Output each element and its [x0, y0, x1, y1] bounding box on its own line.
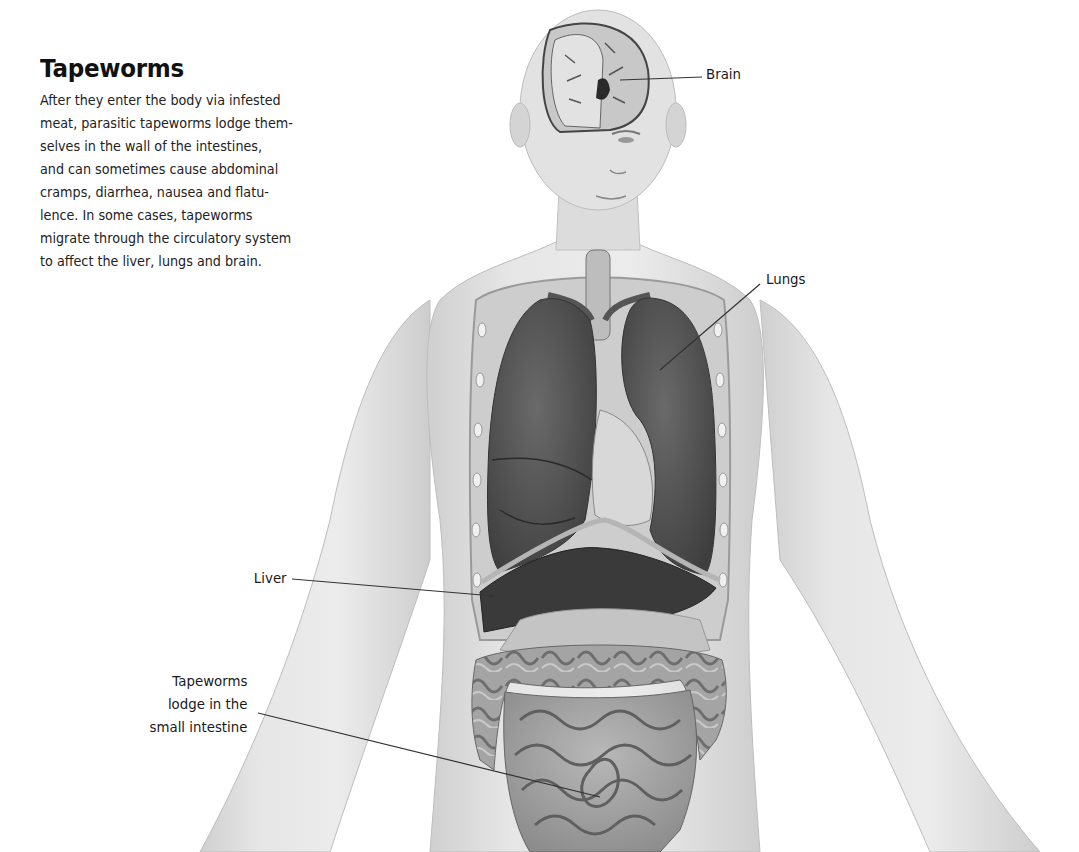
label-liver: Liver	[254, 567, 287, 590]
small-intestine	[504, 690, 697, 852]
page-title: Tapeworms	[40, 54, 344, 83]
label-lungs: Lungs	[766, 271, 806, 287]
label-brain: Brain	[706, 66, 741, 82]
description-line: migrate through the circulatory system	[40, 227, 369, 250]
description-line: After they enter the body via infested	[40, 89, 369, 112]
label-line: small intestine	[149, 716, 247, 739]
description-line: lence. In some cases, tapeworms	[40, 204, 369, 227]
description-line: meat, parasitic tapeworms lodge them-	[40, 112, 369, 135]
description-line: to affect the liver, lungs and brain.	[40, 250, 369, 273]
description: After they enter the body via infested m…	[40, 89, 369, 273]
label-line: Tapeworms	[149, 670, 247, 693]
intro-text-block: Tapeworms After they enter the body via …	[40, 54, 370, 273]
description-line: selves in the wall of the intestines,	[40, 135, 369, 158]
description-line: and can sometimes cause abdominal	[40, 158, 369, 181]
brain-cutaway	[543, 23, 649, 132]
label-line: lodge in the	[149, 693, 247, 716]
label-small-intestine: Tapeworms lodge in the small intestine	[149, 670, 247, 739]
description-line: cramps, diarrhea, nausea and flatu-	[40, 181, 369, 204]
